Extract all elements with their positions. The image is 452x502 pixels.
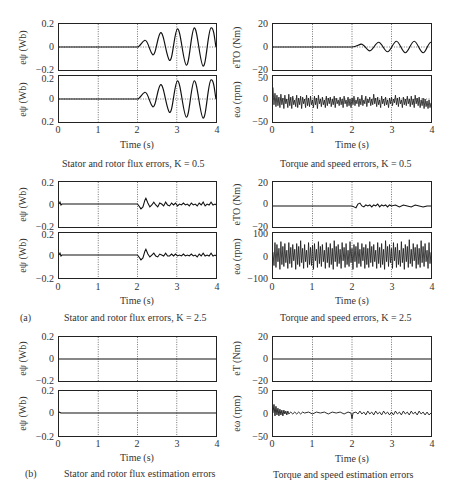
- ytick: 20: [238, 19, 268, 29]
- x-axis-label: Time (s): [97, 295, 177, 306]
- xtick: 4: [210, 282, 224, 292]
- y-axis-label: eT (Nm): [231, 329, 242, 389]
- xtick: 3: [170, 125, 184, 135]
- y-axis-label: eω (rpm): [231, 227, 242, 287]
- ytick: 20: [238, 332, 268, 342]
- caption-r3-left: Stator and rotor flux estimation errors: [64, 468, 215, 479]
- caption-r2-left: Stator and rotor flux errors, K = 2.5: [64, 312, 207, 323]
- xtick: 1: [305, 282, 319, 292]
- xtick: 4: [425, 282, 439, 292]
- ytick: 0: [24, 251, 54, 261]
- chart-r3-flux-stator: [58, 336, 217, 382]
- ytick: 50: [238, 73, 268, 83]
- y-axis-label: eω (rpm): [231, 384, 242, 444]
- chart-r2-speed: [272, 232, 432, 279]
- xtick: 4: [210, 439, 224, 449]
- ytick: 0: [238, 199, 268, 209]
- ytick: 0: [24, 200, 54, 210]
- ytick: 20: [238, 178, 268, 188]
- xtick: 4: [425, 125, 439, 135]
- xtick: 0: [265, 439, 279, 449]
- y-axis-label: eψ (Wb): [17, 70, 28, 130]
- caption-r1-left: Stator and rotor flux errors, K = 0.5: [62, 158, 205, 169]
- xtick: 0: [51, 125, 65, 135]
- ytick: −100: [238, 274, 268, 284]
- xtick: 3: [385, 282, 399, 292]
- ytick: 50: [238, 386, 268, 396]
- ytick: 0.2: [24, 74, 54, 84]
- xtick: 3: [385, 125, 399, 135]
- xtick: 0: [51, 282, 65, 292]
- chart-r2-flux-rotor: [58, 232, 217, 279]
- ytick: 0.2: [24, 178, 54, 188]
- ytick: 0: [24, 354, 54, 364]
- xtick: 3: [385, 439, 399, 449]
- xtick: 0: [265, 282, 279, 292]
- y-axis-label: eψ (Wb): [17, 329, 28, 389]
- y-axis-label: eψ (Wb): [17, 384, 28, 444]
- ytick: −50: [238, 117, 268, 127]
- chart-r1-flux-rotor: [58, 75, 217, 123]
- y-axis-label: eTO (Nm): [231, 175, 242, 235]
- xtick: 2: [345, 282, 359, 292]
- chart-r3-torque: [272, 336, 432, 382]
- xtick: 1: [91, 439, 105, 449]
- ytick: 0.2: [24, 19, 54, 29]
- y-axis-label: eψ (Wb): [17, 18, 28, 78]
- xtick: 2: [130, 282, 144, 292]
- ytick: 0: [238, 409, 268, 419]
- ytick: 0: [24, 94, 54, 104]
- chart-r1-speed: [272, 75, 432, 123]
- chart-r1-torque: [272, 23, 432, 71]
- ytick: 0.2: [24, 386, 54, 396]
- chart-r3-flux-rotor: [58, 390, 217, 437]
- ytick: −0.2: [24, 274, 54, 284]
- chart-r2-flux-stator: [58, 181, 217, 228]
- xtick: 3: [170, 439, 184, 449]
- caption-r2-right: Torque and speed errors, K = 2.5: [280, 312, 412, 323]
- panel-label-b: (b): [25, 468, 37, 479]
- xtick: 0: [51, 439, 65, 449]
- xtick: 0: [265, 125, 279, 135]
- xtick: 1: [305, 125, 319, 135]
- xtick: 2: [345, 439, 359, 449]
- ytick: 0: [238, 252, 268, 262]
- y-axis-label: eψ (Wb): [17, 226, 28, 286]
- y-axis-label: eTO (Nm): [231, 18, 242, 78]
- ytick: 0.2: [24, 332, 54, 342]
- ytick: 0.2: [24, 230, 54, 240]
- ytick: 100: [238, 229, 268, 239]
- ytick: 0: [238, 354, 268, 364]
- xtick: 2: [130, 439, 144, 449]
- xtick: 1: [305, 439, 319, 449]
- chart-r3-speed: [272, 390, 432, 437]
- x-axis-label: Time (s): [312, 139, 392, 150]
- x-axis-label: Time (s): [97, 139, 177, 150]
- xtick: 2: [130, 125, 144, 135]
- ytick: 0: [24, 42, 54, 52]
- x-axis-label: Time (s): [312, 295, 392, 306]
- ytick: −50: [238, 432, 268, 442]
- x-axis-label: Time (s): [97, 452, 177, 463]
- panel-label-a: (a): [20, 312, 31, 323]
- ytick: 0: [238, 94, 268, 104]
- ytick: 0: [24, 408, 54, 418]
- xtick: 2: [345, 125, 359, 135]
- xtick: 4: [210, 125, 224, 135]
- chart-r1-flux-stator: [58, 23, 217, 71]
- y-axis-label: eω (rpm): [231, 70, 242, 130]
- xtick: 4: [425, 439, 439, 449]
- chart-r2-torque: [272, 181, 432, 228]
- caption-r3-right: Torque and speed estimation errors: [273, 469, 413, 480]
- x-axis-label: Time (s): [312, 453, 392, 464]
- ytick: −0.2: [24, 432, 54, 442]
- xtick: 1: [91, 282, 105, 292]
- xtick: 3: [170, 282, 184, 292]
- xtick: 1: [91, 125, 105, 135]
- ytick: 0: [238, 42, 268, 52]
- caption-r1-right: Torque and speed errors, K = 0.5: [280, 158, 412, 169]
- ytick: 0.2: [24, 117, 54, 127]
